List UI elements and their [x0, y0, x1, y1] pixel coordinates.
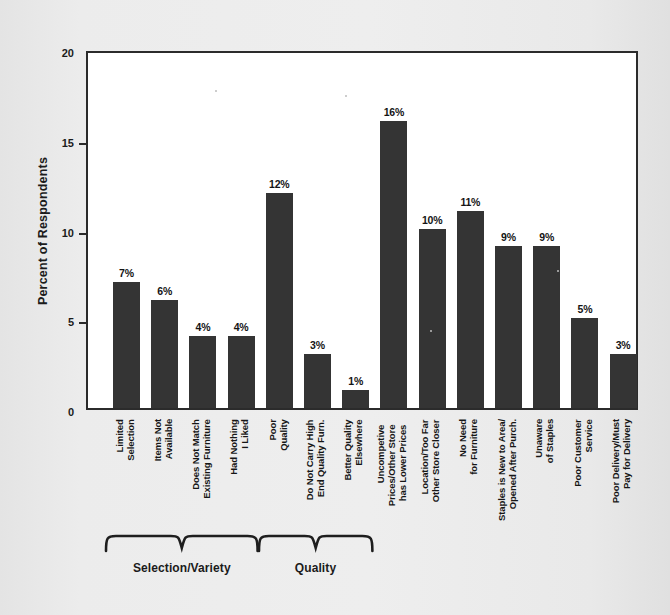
x-axis-tick-label: Unawareof Staples — [525, 414, 564, 534]
scan-speck — [215, 90, 217, 92]
x-axis-tick-labels: LimitedSelectionItems NotAvailableDoes N… — [86, 414, 638, 534]
y-axis-tick-label: 20 — [62, 47, 74, 59]
bar-value-label: 16% — [374, 106, 413, 118]
x-axis-tick-label: Had NothingI Liked — [220, 414, 259, 534]
x-axis-tick-label: Do Not Carry HighEnd Quality Furn. — [296, 414, 335, 534]
y-axis-tick — [79, 233, 88, 235]
group-brace: Quality — [257, 531, 374, 555]
bar — [113, 282, 140, 408]
bar-value-label: 9% — [489, 231, 528, 243]
x-axis-tick-label: PoorQuality — [258, 414, 297, 534]
y-axis-title-text: Percent of Respondents — [36, 156, 50, 304]
group-brace-label: Quality — [257, 561, 374, 575]
bar — [266, 193, 293, 408]
bar-value-label: 4% — [183, 321, 222, 333]
x-axis-tick-label: Poor Delivery/MustPay for Delivery — [602, 414, 641, 534]
bar — [610, 354, 637, 408]
bar-value-label: 10% — [413, 214, 452, 226]
bar-value-label: 4% — [222, 321, 261, 333]
brace-icon — [257, 531, 374, 555]
group-brace-label: Selection/Variety — [104, 561, 260, 575]
bar-value-label: 5% — [565, 303, 604, 315]
x-axis-tick-label: Does Not MatchExisting Furniture — [181, 414, 220, 534]
x-axis-tick-label: Staples is New to Area/Opened After Purc… — [487, 414, 526, 534]
brace-icon — [104, 531, 260, 555]
x-axis-tick-label: LimitedSelection — [105, 414, 144, 534]
bar-value-label: 3% — [298, 339, 337, 351]
x-axis-tick-label: UncompetivePrices/Other Storehas Lower P… — [372, 414, 411, 534]
group-brace: Selection/Variety — [104, 531, 260, 555]
x-axis-tick-label: No Needfor Furniture — [449, 414, 488, 534]
bar — [457, 211, 484, 408]
bar — [189, 336, 216, 408]
bar — [571, 318, 598, 408]
bar — [419, 229, 446, 409]
bar — [304, 354, 331, 408]
scan-speck — [345, 95, 347, 97]
x-axis-tick-label: Poor CustomerService — [563, 414, 602, 534]
bar-value-label: 12% — [260, 178, 299, 190]
bar-value-label: 6% — [145, 285, 184, 297]
y-axis-tick-label: 10 — [62, 227, 74, 239]
y-axis-tick — [79, 143, 88, 145]
bar — [380, 121, 407, 408]
y-axis-tick-label: 15 — [62, 137, 74, 149]
scan-speck — [557, 270, 559, 272]
bar-value-label: 11% — [451, 196, 490, 208]
bar — [151, 300, 178, 408]
plot-area: 05101520 7%6%4%4%12%3%1%16%10%11%9%9%5%3… — [86, 51, 638, 410]
y-axis-tick-label: 5 — [68, 316, 74, 328]
bar-value-label: 9% — [527, 231, 566, 243]
x-axis-tick-label: Location/Too FarOther Store Closer — [411, 414, 450, 534]
y-axis-tick — [79, 322, 88, 324]
bar-series: 7%6%4%4%12%3%1%16%10%11%9%9%5%3% — [88, 53, 636, 408]
chart-figure: Percent of Respondents 05101520 7%6%4%4%… — [0, 0, 670, 615]
y-axis-tick-label: 0 — [68, 406, 74, 418]
scan-speck — [430, 330, 432, 332]
x-axis-tick-label: Items NotAvailable — [143, 414, 182, 534]
group-braces: Selection/VarietyQuality — [86, 531, 638, 601]
bar-value-label: 1% — [336, 375, 375, 387]
bar — [495, 246, 522, 408]
y-axis-title: Percent of Respondents — [34, 51, 52, 410]
bar-value-label: 3% — [604, 339, 643, 351]
x-axis-tick-label: Better QualityElsewhere — [334, 414, 373, 534]
bar — [342, 390, 369, 408]
bar — [228, 336, 255, 408]
bar-value-label: 7% — [107, 267, 146, 279]
